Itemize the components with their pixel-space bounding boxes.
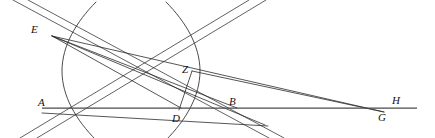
geometry-canvas — [0, 0, 435, 138]
asymptote-rising-lower — [37, 0, 266, 138]
hyperbola-left-branch — [62, 2, 96, 138]
point-label-h: H — [392, 95, 400, 106]
point-label-e: E — [31, 24, 38, 35]
geometry-figure: E Z A D B G H — [0, 0, 435, 138]
point-label-d: D — [172, 113, 180, 124]
point-label-g: G — [378, 112, 386, 123]
point-label-z: Z — [182, 64, 188, 75]
segment-e-extended — [52, 36, 265, 125]
point-label-a: A — [38, 97, 45, 108]
asymptote-upper-left — [13, 0, 269, 138]
point-label-b: B — [229, 96, 236, 107]
asymptote-rising-upper — [20, 0, 249, 138]
segment-z-to-g — [192, 71, 384, 112]
